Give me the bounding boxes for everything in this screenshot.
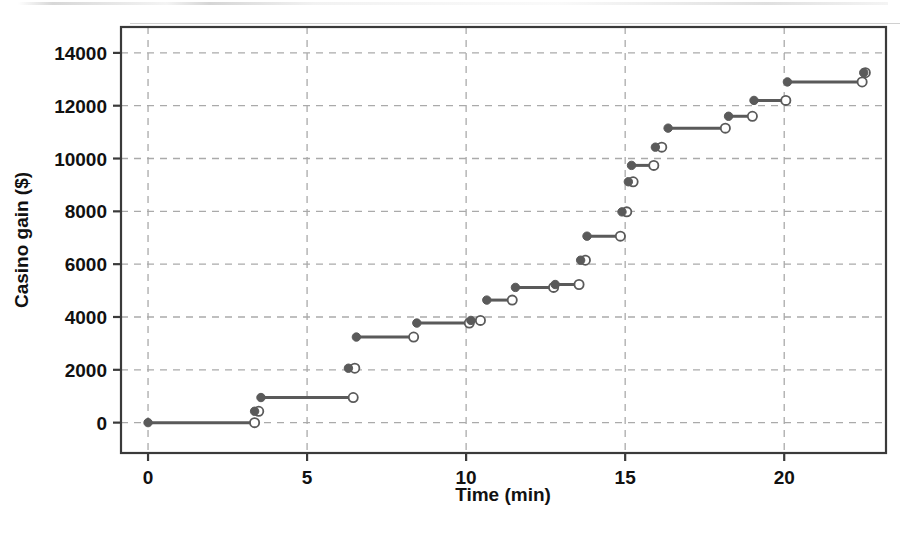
x-tick-label: 20 — [774, 467, 795, 488]
step-start-marker — [860, 68, 868, 76]
step-end-marker — [748, 112, 757, 121]
step-start-marker — [724, 112, 732, 120]
step-end-marker — [649, 161, 658, 170]
step-start-marker — [651, 143, 659, 151]
step-start-marker — [750, 96, 758, 104]
step-end-marker — [781, 96, 790, 105]
y-tick-label: 2000 — [65, 360, 107, 381]
step-start-marker — [511, 283, 519, 291]
step-series — [144, 68, 870, 427]
step-start-marker — [576, 256, 584, 264]
step-end-marker — [349, 393, 358, 402]
plot-canvas: 0200040006000800010000120001400005101520… — [0, 0, 906, 535]
step-end-marker — [616, 232, 625, 241]
x-tick-label: 0 — [143, 467, 154, 488]
step-end-marker — [409, 332, 418, 341]
y-tick-label: 0 — [96, 413, 107, 434]
step-start-marker — [783, 78, 791, 86]
plot-frame — [121, 27, 886, 453]
y-axis-title: Casino gain ($) — [11, 172, 32, 308]
y-tick-label: 10000 — [54, 149, 107, 170]
step-start-marker — [467, 316, 475, 324]
step-start-marker — [618, 208, 626, 216]
step-start-marker — [551, 280, 559, 288]
y-tick-label: 6000 — [65, 254, 107, 275]
casino-gain-step-chart: 0200040006000800010000120001400005101520… — [0, 0, 906, 535]
axis-ticks — [113, 53, 784, 461]
step-start-marker — [352, 333, 360, 341]
step-start-marker — [257, 393, 265, 401]
step-start-marker — [583, 232, 591, 240]
x-tick-label: 15 — [615, 467, 637, 488]
step-start-marker — [250, 407, 258, 415]
step-start-marker — [413, 319, 421, 327]
step-end-marker — [574, 280, 583, 289]
step-end-marker — [721, 124, 730, 133]
step-start-marker — [664, 124, 672, 132]
x-axis-title: Time (min) — [455, 484, 551, 505]
y-tick-label: 8000 — [65, 201, 107, 222]
step-end-marker — [476, 316, 485, 325]
y-tick-label: 4000 — [65, 307, 107, 328]
step-start-marker — [144, 418, 152, 426]
y-tick-label: 12000 — [54, 96, 107, 117]
step-end-marker — [250, 418, 259, 427]
x-tick-label: 5 — [302, 467, 313, 488]
step-end-marker — [858, 77, 867, 86]
grid-lines — [121, 27, 886, 453]
step-start-marker — [344, 364, 352, 372]
step-start-marker — [483, 296, 491, 304]
step-start-marker — [627, 161, 635, 169]
step-start-marker — [624, 178, 632, 186]
step-end-marker — [508, 295, 517, 304]
y-tick-label: 14000 — [54, 43, 107, 64]
plot-border — [121, 27, 886, 453]
